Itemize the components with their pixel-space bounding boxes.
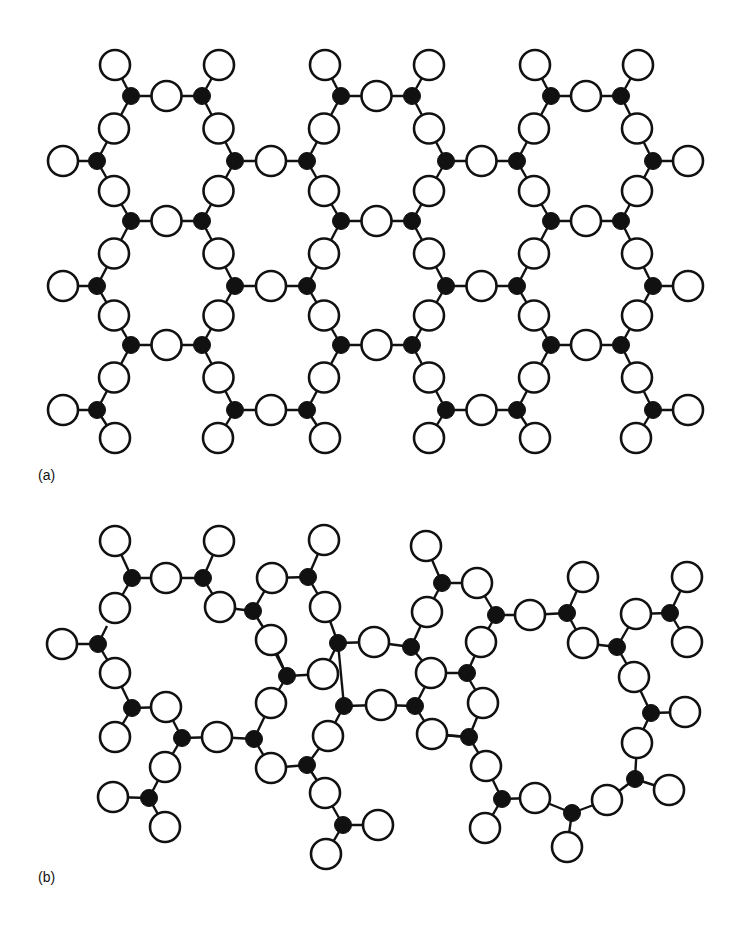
open-atom: [363, 810, 393, 840]
open-atom: [256, 395, 286, 425]
open-atom: [414, 114, 444, 144]
filled-atom: [662, 605, 679, 622]
panel-a-bonds: [63, 65, 688, 438]
open-atom: [256, 271, 286, 301]
open-atom: [471, 751, 501, 781]
filled-atom: [174, 730, 191, 747]
filled-atom: [89, 278, 106, 295]
filled-atom: [300, 569, 317, 586]
open-atom: [673, 271, 703, 301]
filled-atom: [195, 570, 212, 587]
open-atom: [309, 301, 339, 331]
open-atom: [202, 722, 232, 752]
filled-atom: [564, 805, 581, 822]
open-atom: [310, 423, 340, 453]
filled-atom: [613, 213, 630, 230]
open-atom: [467, 271, 497, 301]
open-atom: [309, 114, 339, 144]
filled-atom: [613, 88, 630, 105]
filled-atom: [645, 402, 662, 419]
open-atom: [311, 839, 341, 869]
filled-atom: [543, 337, 560, 354]
filled-atom: [643, 705, 660, 722]
open-atom: [100, 423, 130, 453]
open-atom: [100, 658, 130, 688]
open-atom: [310, 592, 340, 622]
open-atom: [366, 690, 396, 720]
filled-atom: [438, 278, 455, 295]
open-atom: [416, 658, 446, 688]
open-atom: [204, 363, 234, 393]
open-atom: [515, 600, 545, 630]
silica-network-figure: [0, 0, 741, 942]
open-atom: [519, 114, 549, 144]
open-atom: [470, 813, 500, 843]
open-atom: [152, 330, 182, 360]
open-atom: [412, 597, 442, 627]
filled-atom: [494, 791, 511, 808]
open-atom: [256, 688, 286, 718]
filled-atom: [124, 700, 141, 717]
open-atom: [467, 395, 497, 425]
filled-atom: [333, 213, 350, 230]
open-atom: [256, 753, 286, 783]
filled-atom: [461, 729, 478, 746]
open-atom: [99, 301, 129, 331]
open-atom: [310, 778, 340, 808]
open-atom: [520, 783, 550, 813]
open-atom: [100, 593, 130, 623]
filled-atom: [509, 153, 526, 170]
open-atom: [48, 271, 78, 301]
filled-atom: [559, 605, 576, 622]
filled-atom: [627, 771, 644, 788]
open-atom: [467, 146, 497, 176]
open-atom: [257, 563, 287, 593]
open-atom: [150, 752, 180, 782]
filled-atom: [403, 639, 420, 656]
open-atom: [309, 525, 339, 555]
filled-atom: [609, 639, 626, 656]
open-atom: [362, 206, 392, 236]
open-atom: [309, 176, 339, 206]
open-atom: [309, 239, 339, 269]
filled-atom: [333, 88, 350, 105]
open-atom: [519, 239, 549, 269]
open-atom: [256, 625, 286, 655]
filled-atom: [299, 402, 316, 419]
open-atom: [99, 114, 129, 144]
open-atom: [414, 239, 444, 269]
filled-atom: [613, 337, 630, 354]
open-atom: [520, 423, 550, 453]
filled-atom: [404, 213, 421, 230]
filled-atom: [434, 575, 451, 592]
open-atom: [672, 627, 702, 657]
filled-atom: [509, 278, 526, 295]
filled-atom: [194, 88, 211, 105]
open-atom: [619, 662, 649, 692]
filled-atom: [438, 402, 455, 419]
open-atom: [99, 363, 129, 393]
open-atom: [411, 531, 441, 561]
open-atom: [571, 330, 601, 360]
filled-atom: [645, 153, 662, 170]
open-atom: [568, 628, 598, 658]
filled-atom: [299, 757, 316, 774]
filled-atom: [330, 635, 347, 652]
open-atom: [203, 423, 233, 453]
open-atom: [204, 176, 234, 206]
filled-atom: [509, 402, 526, 419]
open-atom: [313, 721, 343, 751]
panel-a-open-atoms: [48, 50, 703, 453]
open-atom: [204, 239, 234, 269]
open-atom: [519, 301, 549, 331]
open-atom: [654, 775, 684, 805]
open-atom: [462, 568, 492, 598]
panel-label-b: (b): [38, 869, 55, 885]
filled-atom: [407, 698, 424, 715]
open-atom: [622, 728, 652, 758]
filled-atom: [227, 278, 244, 295]
filled-atom: [89, 402, 106, 419]
open-atom: [151, 692, 181, 722]
filled-atom: [333, 337, 350, 354]
panel-label-a: (a): [38, 467, 55, 483]
